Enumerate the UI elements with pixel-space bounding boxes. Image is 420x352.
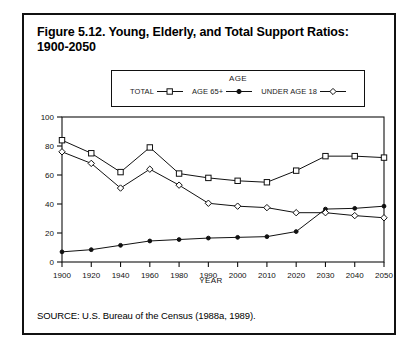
x-axis-tick-label: 2010	[258, 271, 276, 280]
diamond-open-marker	[352, 212, 358, 218]
square-open-marker	[118, 169, 123, 174]
dot-solid-marker	[206, 236, 210, 240]
x-axis-tick-label: 2040	[346, 271, 364, 280]
square-open-marker	[293, 168, 298, 173]
dot-solid-marker	[177, 238, 181, 242]
figure-frame: Figure 5.12. Young, Elderly, and Total S…	[22, 13, 396, 335]
dot-solid-marker	[265, 235, 269, 239]
series-layer	[59, 138, 387, 254]
square-open-marker	[89, 151, 94, 156]
diamond-open-marker	[205, 200, 211, 206]
plot-frame	[62, 117, 384, 262]
dot-solid-marker	[119, 243, 123, 247]
x-axis-tick-label: 2050	[375, 271, 393, 280]
square-open-marker	[59, 138, 64, 143]
dot-solid-marker	[294, 230, 298, 234]
x-axis-tick-label: 1920	[82, 271, 100, 280]
axes-layer	[57, 117, 384, 267]
x-axis-tick-label: 1940	[112, 271, 130, 280]
square-open-marker	[176, 171, 181, 176]
y-axis-tick-label: 80	[45, 142, 54, 151]
x-axis-title: YEAR	[199, 276, 222, 285]
square-open-marker	[235, 178, 240, 183]
dot-solid-marker	[236, 235, 240, 239]
diamond-open-marker	[293, 210, 299, 216]
square-open-marker	[352, 153, 357, 158]
x-axis-tick-label: 2000	[229, 271, 247, 280]
diamond-open-marker	[234, 203, 240, 209]
square-open-marker	[147, 145, 152, 150]
x-axis-tick-label: 2020	[287, 271, 305, 280]
x-axis-tick-label: 2030	[317, 271, 335, 280]
y-axis-tick-label: 60	[45, 171, 54, 180]
y-axis-tick-label: 20	[45, 229, 54, 238]
dot-solid-marker	[148, 239, 152, 243]
series-line-under-age-18	[62, 152, 384, 218]
dot-solid-marker	[89, 248, 93, 252]
y-axis-tick-label: 100	[41, 113, 55, 122]
axis-labels-layer: 0204060801001900192019401960198019902000…	[41, 113, 394, 280]
dot-solid-marker	[382, 204, 386, 208]
support-ratios-line-chart: 0204060801001900192019401960198019902000…	[24, 15, 398, 337]
square-open-marker	[206, 175, 211, 180]
dot-solid-marker	[353, 206, 357, 210]
y-axis-tick-label: 40	[45, 200, 54, 209]
diamond-open-marker	[264, 204, 270, 210]
x-axis-tick-label: 1980	[170, 271, 188, 280]
x-axis-tick-label: 1960	[141, 271, 159, 280]
x-axis-tick-label: 1900	[53, 271, 71, 280]
diamond-open-marker	[147, 166, 153, 172]
dot-solid-marker	[60, 250, 64, 254]
y-axis-tick-label: 0	[50, 258, 55, 267]
diamond-open-marker	[176, 182, 182, 188]
square-open-marker	[381, 155, 386, 160]
square-open-marker	[323, 153, 328, 158]
series-line-total	[62, 140, 384, 182]
series-line-age-65-	[62, 206, 384, 252]
chart-plot-area: 0204060801001900192019401960198019902000…	[24, 15, 398, 337]
source-note: SOURCE: U.S. Bureau of the Census (1988a…	[37, 310, 256, 321]
diamond-open-marker	[59, 149, 65, 155]
diamond-open-marker	[381, 215, 387, 221]
square-open-marker	[264, 180, 269, 185]
